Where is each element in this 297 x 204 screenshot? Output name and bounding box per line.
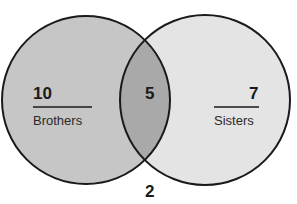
sisters-only-count: 7: [249, 84, 258, 103]
brothers-label: Brothers: [33, 113, 83, 128]
brothers-only-count: 10: [33, 84, 52, 103]
sisters-label: Sisters: [214, 113, 254, 128]
intersection-count: 5: [145, 84, 154, 103]
venn-diagram: 10 Brothers 5 7 Sisters 2: [0, 0, 297, 204]
outside-count: 2: [145, 182, 154, 201]
